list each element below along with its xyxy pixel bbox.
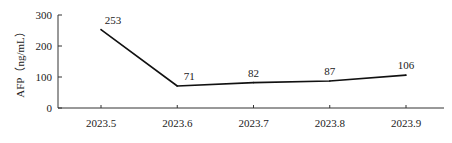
y-tick-label: 300 [36, 9, 53, 21]
x-tick-label: 2023.6 [162, 117, 193, 129]
y-tick-label: 0 [47, 102, 53, 114]
data-label: 71 [184, 70, 195, 82]
data-point [176, 85, 178, 87]
y-tick-label: 100 [36, 71, 53, 83]
x-tick-label: 2023.8 [315, 117, 346, 129]
data-point [405, 74, 407, 76]
y-axis-title: AFP（ng/mL） [14, 26, 26, 98]
data-label: 106 [398, 59, 415, 71]
x-axis: 2023.52023.62023.72023.82023.9 [58, 105, 444, 129]
data-label: 253 [105, 14, 122, 26]
data-point [329, 80, 331, 82]
y-axis: 0100200300 [36, 9, 63, 114]
data-label: 87 [324, 65, 336, 77]
x-tick-label: 2023.7 [238, 117, 269, 129]
y-tick-label: 200 [36, 40, 53, 52]
x-tick-label: 2023.9 [391, 117, 422, 129]
afp-line-chart: 0100200300 2023.52023.62023.72023.82023.… [0, 0, 452, 143]
data-point [100, 29, 102, 31]
data-point [253, 82, 255, 84]
data-labels: 253718287106 [105, 14, 415, 82]
data-label: 82 [248, 67, 259, 79]
x-tick-label: 2023.5 [86, 117, 117, 129]
